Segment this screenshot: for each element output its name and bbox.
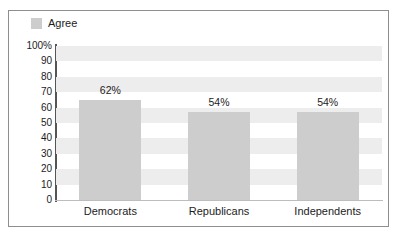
plot-area: 62%54%54%: [56, 46, 382, 200]
y-axis-tick-label: 40: [9, 133, 52, 143]
bar-group: 54%: [273, 46, 382, 200]
y-axis-tick-labels: 100%9080706050403020100: [9, 46, 52, 200]
legend-label-agree: Agree: [48, 18, 77, 29]
x-axis-tick-label: Republicans: [165, 205, 274, 218]
y-axis-tick-label: 100%: [9, 41, 52, 51]
y-axis-tick-label: 30: [9, 149, 52, 159]
bar-democrats[interactable]: [79, 100, 141, 200]
y-axis-tick-label: 50: [9, 118, 52, 128]
y-axis-tick-label: 70: [9, 87, 52, 97]
bar-group: 54%: [165, 46, 274, 200]
x-axis-baseline: [55, 200, 383, 201]
bar-value-label: 62%: [100, 85, 121, 96]
bar-value-label: 54%: [208, 97, 229, 108]
y-axis-tick-label: 90: [9, 56, 52, 66]
bar-value-label: 54%: [317, 97, 338, 108]
legend-swatch-agree-icon: [31, 18, 42, 29]
x-axis-tick-label: Democrats: [56, 205, 165, 218]
x-axis-tick-label: Independents: [273, 205, 382, 218]
y-axis-tick-label: 0: [9, 195, 52, 205]
bar-independents[interactable]: [297, 112, 359, 200]
chart-frame: Agree 100%9080706050403020100 62%54%54% …: [8, 10, 389, 227]
y-axis-tick-label: 80: [9, 72, 52, 82]
y-axis-tick-label: 60: [9, 103, 52, 113]
chart-legend: Agree: [31, 18, 77, 29]
y-axis-tick-label: 10: [9, 180, 52, 190]
bar-group: 62%: [56, 46, 165, 200]
bar-republicans[interactable]: [188, 112, 250, 200]
y-axis-tick-label: 20: [9, 164, 52, 174]
x-axis-category-labels: DemocratsRepublicansIndependents: [56, 205, 382, 218]
